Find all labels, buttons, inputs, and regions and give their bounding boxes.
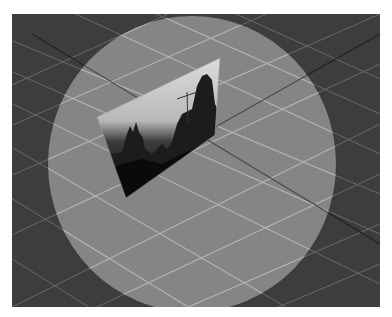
scene-canvas xyxy=(12,14,380,307)
3d-viewport[interactable]: 3D viewport: grey grid floor in perspect… xyxy=(12,14,380,307)
spotlight-circle xyxy=(48,16,336,307)
